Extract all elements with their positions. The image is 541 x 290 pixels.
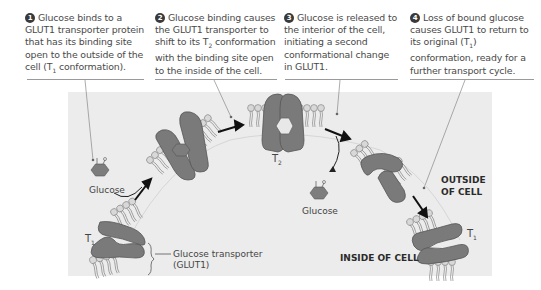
glucose-label-inside: Glucose — [302, 206, 338, 217]
t1-label-left: T1 — [85, 233, 95, 248]
inside-of-cell-label: INSIDE OF CELL — [340, 252, 419, 264]
release-arrowhead — [329, 166, 336, 172]
glut1-releasing — [349, 139, 413, 202]
t1-label-right: T1 — [467, 228, 477, 243]
glucose-transporter-label: Glucose transporter (GLUT1) — [173, 249, 263, 271]
glucose-label-outside: Glucose — [89, 185, 125, 196]
t2-label: T2 — [272, 153, 282, 168]
glut1-bound-glucose — [145, 112, 223, 180]
glut1-t2 — [248, 94, 325, 152]
glut1-t1-left — [89, 197, 145, 279]
glucose-molecule-inside — [310, 181, 328, 200]
glucose-release-curve — [332, 136, 339, 170]
transporter-bracket — [148, 243, 154, 275]
glut1-t1-right — [405, 209, 468, 281]
outside-of-cell-label: OUTSIDE OF CELL — [441, 174, 486, 198]
transport-cycle-illustration — [0, 0, 541, 290]
